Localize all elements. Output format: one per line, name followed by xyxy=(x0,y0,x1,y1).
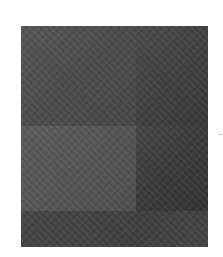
image-region-mid-right xyxy=(136,126,208,211)
texture-image xyxy=(21,26,208,247)
image-region-top-right xyxy=(136,26,208,126)
image-region-bottom-left xyxy=(21,211,136,247)
image-region-mid-left xyxy=(21,126,136,211)
side-tick-mark xyxy=(219,134,222,135)
image-region-top-left xyxy=(21,26,136,126)
image-region-bottom-right xyxy=(136,211,208,247)
